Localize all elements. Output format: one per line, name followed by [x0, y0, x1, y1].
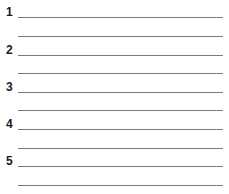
item-number-3: 3 — [6, 81, 13, 93]
answer-line-2a — [18, 55, 223, 56]
item-number-1: 1 — [6, 6, 13, 18]
answer-line-2b — [18, 73, 223, 74]
answer-line-4b — [18, 148, 223, 149]
item-number-4: 4 — [6, 118, 13, 130]
item-number-5: 5 — [6, 155, 13, 167]
answer-line-1b — [18, 36, 223, 37]
item-number-2: 2 — [6, 44, 13, 56]
answer-line-5b — [18, 185, 223, 186]
answer-line-5a — [18, 166, 223, 167]
answer-line-1a — [18, 17, 223, 18]
answer-line-3a — [18, 92, 223, 93]
answer-line-3b — [18, 110, 223, 111]
answer-line-4a — [18, 129, 223, 130]
